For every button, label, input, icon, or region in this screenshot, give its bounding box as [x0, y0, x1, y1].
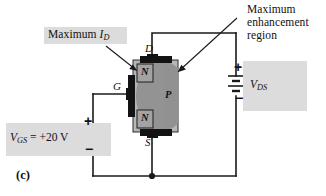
- max-enhancement-leader-arrow: [178, 18, 238, 72]
- vds-plus-sign: +: [234, 59, 242, 75]
- vgs-minus-sign: −: [85, 141, 93, 157]
- source-terminal-label: S: [145, 136, 151, 149]
- vds-symbol-subscript: DS: [257, 83, 267, 92]
- vgs-value: +20 V: [39, 131, 68, 143]
- gate-terminal-label: G: [113, 80, 121, 93]
- drain-contact-tab: [147, 54, 158, 63]
- max-enhancement-line1: Maximum: [247, 3, 309, 16]
- max-id-label: Maximum ID: [48, 28, 110, 42]
- max-id-leader-arrow: [106, 46, 138, 71]
- vgs-source-label: VGS = +20 V: [10, 131, 68, 145]
- drain-terminal-label: D: [145, 42, 153, 55]
- vgs-plus-sign: +: [84, 113, 92, 129]
- p-channel-region-label: P: [165, 89, 171, 101]
- max-enhancement-label: Maximum enhancement region: [247, 3, 309, 43]
- bottom-rail-junction-dot: [149, 173, 155, 179]
- vds-symbol: V: [250, 78, 257, 90]
- gate-contact-tab: [126, 88, 134, 100]
- vds-source-label: VDS: [250, 78, 267, 92]
- vds-minus-sign: −: [235, 90, 243, 106]
- max-id-word: Maximum: [48, 28, 97, 40]
- lower-n-region-label: N: [141, 112, 149, 124]
- panel-identifier: (c): [16, 168, 30, 182]
- vgs-symbol-subscript: GS: [17, 136, 27, 145]
- upper-n-region-label: N: [141, 66, 149, 78]
- vgs-symbol: V: [10, 131, 17, 143]
- mosfet-circuit-figure: Maximum ID Maximum enhancement region D …: [0, 0, 326, 196]
- max-id-symbol-subscript: D: [104, 33, 110, 42]
- max-enhancement-line3: region: [247, 29, 309, 42]
- max-enhancement-line2: enhancement: [247, 16, 309, 29]
- vds-battery-symbol: [228, 76, 244, 91]
